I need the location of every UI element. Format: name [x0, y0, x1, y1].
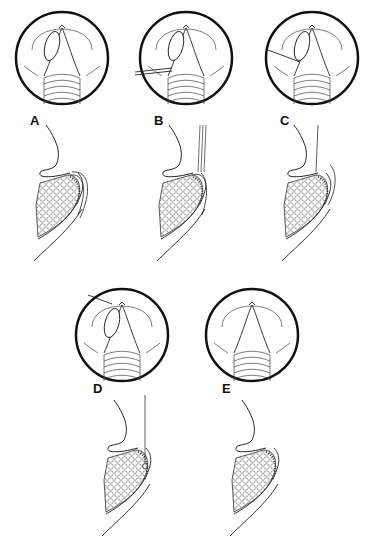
panel-label-e: E [222, 381, 231, 396]
panel-e-drawing [0, 0, 370, 538]
